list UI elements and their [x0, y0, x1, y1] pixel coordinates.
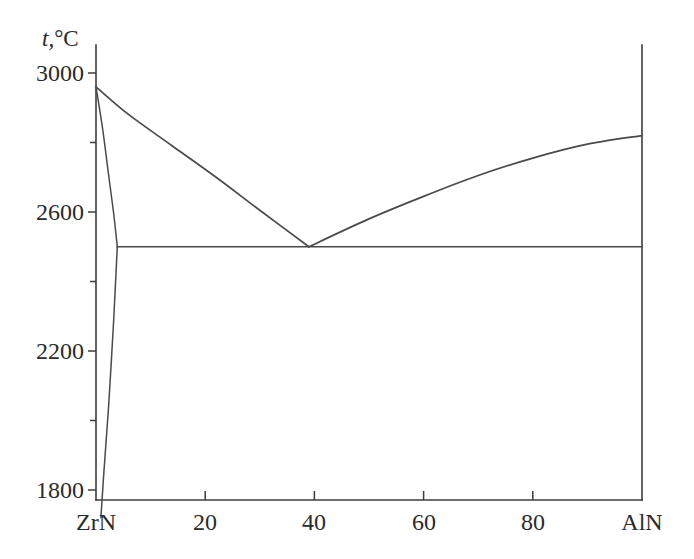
- x-axis-ticks: [205, 491, 533, 500]
- y-axis-title-unit: °C: [54, 26, 79, 51]
- x-tick-label-60: 60: [384, 510, 464, 534]
- curve-liquidus-aln-branch: [309, 136, 642, 247]
- x-tick-label-zrn: ZrN: [56, 510, 136, 534]
- phase-diagram-plot: [0, 0, 694, 559]
- phase-diagram-figure: t,°C 3000 2600 2200 1800 ZrN 20 40 60 80…: [0, 0, 694, 559]
- x-tick-label-40: 40: [274, 510, 354, 534]
- y-tick-label-2600: 2600: [0, 200, 84, 224]
- x-tick-label-aln: AlN: [602, 510, 682, 534]
- x-tick-label-20: 20: [165, 510, 245, 534]
- y-tick-label-2200: 2200: [0, 339, 84, 363]
- y-axis-minor-ticks: [90, 143, 96, 421]
- x-tick-label-80: 80: [493, 510, 573, 534]
- curve-liquidus-zrn-branch: [96, 87, 309, 247]
- curve-solidus-zrn-side: [96, 87, 117, 247]
- y-tick-label-3000: 3000: [0, 61, 84, 85]
- y-axis-title: t,°C: [42, 27, 79, 50]
- curve-solvus-zrn-side: [101, 247, 117, 518]
- y-tick-label-1800: 1800: [0, 478, 84, 502]
- y-axis-title-symbol: t,: [42, 26, 54, 51]
